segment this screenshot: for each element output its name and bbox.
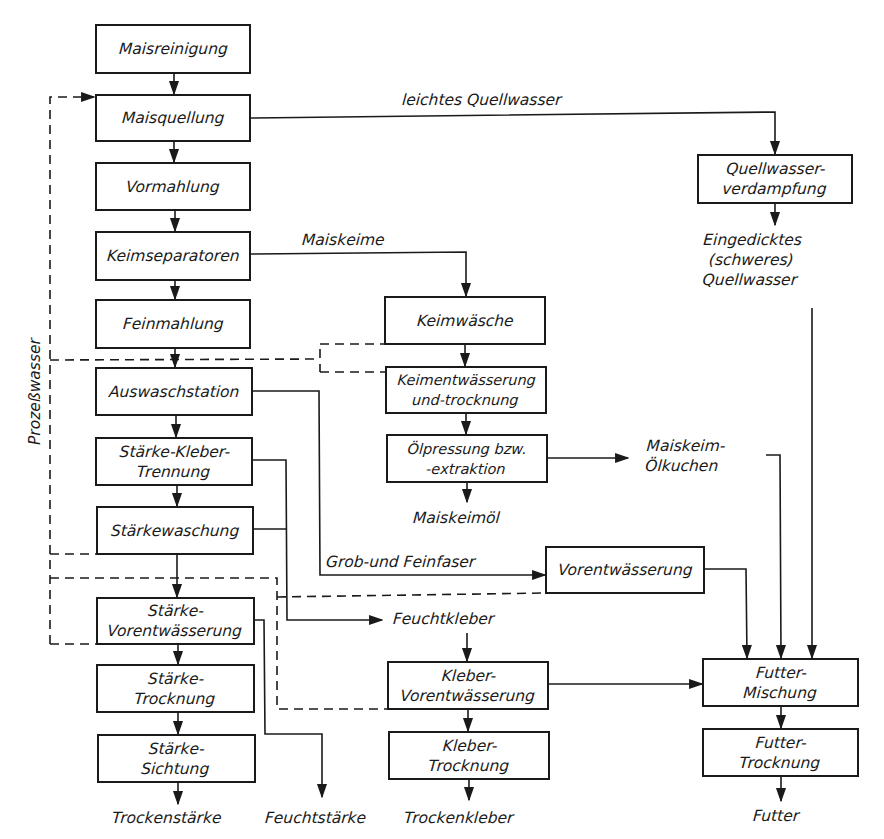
node-label: Auswaschstation bbox=[108, 382, 240, 402]
output-eingedicktes-quellwasser: Eingedicktes (schweres) Quellwasser bbox=[700, 230, 803, 290]
node-label: Kleber- Vorentwässerung bbox=[399, 666, 537, 706]
node-label: Quellwasser- verdampfung bbox=[721, 159, 828, 199]
node-maisquellung: Maisquellung bbox=[96, 95, 250, 141]
node-label: Ölpressung bzw. -extraktion bbox=[406, 439, 528, 479]
edge-label-leichtes-quellwasser: leichtes Quellwasser bbox=[401, 90, 562, 110]
node-auswaschstation: Auswaschstation bbox=[96, 368, 252, 415]
node-label: Keimwäsche bbox=[416, 311, 514, 331]
node-staerke-kleber-trennung: Stärke-Kleber- Trennung bbox=[96, 438, 252, 485]
node-kleber-trocknung: Kleber- Trocknung bbox=[389, 732, 549, 779]
edge-label-grob-feinfaser: Grob-und Feinfaser bbox=[325, 552, 476, 572]
node-staerkewaschung: Stärkewaschung bbox=[97, 507, 253, 554]
node-label: Kleber- Trocknung bbox=[427, 736, 511, 776]
output-maiskeim-oelkuchen: Maiskeim- Ölkuchen bbox=[645, 436, 727, 476]
node-kleber-vorentwaesserung: Kleber- Vorentwässerung bbox=[388, 662, 548, 709]
output-trockenstaerke: Trockenstärke bbox=[111, 808, 222, 828]
edge-label-feuchtkleber: Feuchtkleber bbox=[392, 609, 495, 629]
node-staerke-trocknung: Stärke- Trocknung bbox=[97, 665, 254, 712]
node-staerke-vorentwaesserung: Stärke- Vorentwässerung bbox=[97, 598, 254, 644]
node-label: Maisquellung bbox=[121, 108, 225, 128]
node-label: Maisreinigung bbox=[118, 39, 228, 59]
node-label: Stärkewaschung bbox=[110, 521, 240, 541]
output-trockenkleber: Trockenkleber bbox=[403, 808, 514, 828]
node-label: Stärke- Trocknung bbox=[134, 669, 218, 709]
node-label: Stärke-Kleber- Trennung bbox=[117, 442, 230, 482]
node-vorentwaesserung: Vorentwässerung bbox=[546, 547, 704, 593]
node-keimentwaesserung: Keimentwässerung und-trocknung bbox=[386, 367, 546, 413]
node-futter-mischung: Futter- Mischung bbox=[703, 659, 858, 706]
output-feuchtstaerke: Feuchtstärke bbox=[264, 808, 367, 828]
node-label: Futter- Mischung bbox=[742, 663, 818, 703]
node-futter-trocknung: Futter- Trocknung bbox=[703, 729, 858, 776]
node-staerke-sichtung: Stärke- Sichtung bbox=[98, 735, 255, 782]
node-label: Stärke- Vorentwässerung bbox=[107, 601, 245, 641]
node-label: Futter- Trocknung bbox=[739, 733, 823, 773]
node-keimwaesche: Keimwäsche bbox=[385, 297, 545, 344]
edge-label-prozesswasser: Prozeßwasser bbox=[26, 338, 44, 445]
edge-label-maiskeime: Maiskeime bbox=[301, 230, 385, 250]
node-oelpressung: Ölpressung bzw. -extraktion bbox=[387, 435, 547, 482]
node-label: Vorentwässerung bbox=[557, 560, 693, 580]
node-maisreinigung: Maisreinigung bbox=[96, 25, 250, 73]
node-feinmahlung: Feinmahlung bbox=[96, 300, 250, 348]
output-maiskeimoel: Maiskeimöl bbox=[412, 508, 500, 528]
node-label: Keimseparatoren bbox=[106, 246, 240, 266]
node-label: Vormahlung bbox=[125, 177, 220, 197]
node-label: Keimentwässerung und-trocknung bbox=[396, 370, 537, 410]
node-keimseparatoren: Keimseparatoren bbox=[96, 232, 250, 280]
node-label: Stärke- Sichtung bbox=[141, 739, 212, 779]
node-label: Feinmahlung bbox=[122, 314, 224, 334]
node-quellwasserverdampfung: Quellwasser- verdampfung bbox=[698, 155, 852, 203]
output-futter: Futter bbox=[752, 806, 800, 826]
node-vormahlung: Vormahlung bbox=[96, 163, 250, 210]
